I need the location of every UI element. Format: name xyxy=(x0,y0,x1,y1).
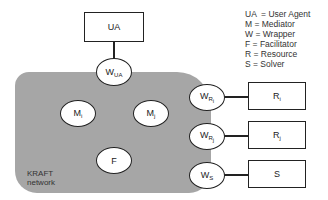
solver-node: S xyxy=(248,160,306,188)
kraft-network-label: KRAFT network xyxy=(27,169,55,187)
legend: UA = User Agent M = Mediator W = Wrapper… xyxy=(245,9,310,69)
wrapper-ua-node: WUA xyxy=(96,58,132,86)
legend-item: W = Wrapper xyxy=(245,29,310,39)
edge-wrj-rj xyxy=(224,135,248,137)
wrapper-s-node: WS xyxy=(189,162,225,189)
mediator-i-node: Mi xyxy=(60,100,96,127)
legend-item: M = Mediator xyxy=(245,19,310,29)
facilitator-node: F xyxy=(96,147,132,174)
edge-wri-ri xyxy=(224,96,248,98)
edge-ws-s xyxy=(224,174,248,176)
edge-ua-wua xyxy=(113,42,115,59)
legend-item: S = Solver xyxy=(245,59,310,69)
legend-item: R = Resource xyxy=(245,49,310,59)
resource-i-node: Ri xyxy=(248,82,306,110)
legend-item: F = Facilitator xyxy=(245,39,310,49)
wrapper-ri-node: WRi xyxy=(189,84,225,111)
legend-item: UA = User Agent xyxy=(245,9,310,19)
user-agent-node: UA xyxy=(84,12,144,42)
mediator-j-node: Mj xyxy=(133,100,169,127)
resource-j-node: Rj xyxy=(248,121,306,149)
wrapper-rj-node: WRj xyxy=(189,123,225,150)
